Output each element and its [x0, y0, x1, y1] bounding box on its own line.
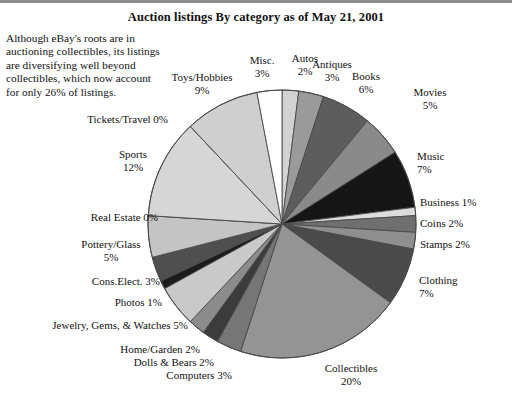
pie-label-computers: Computers 3%	[86, 369, 232, 382]
pie-label-business: Business 1%	[420, 196, 510, 209]
pie-label-toys: Toys/Hobbies 9%	[153, 71, 251, 96]
chart-title: Auction listings By category as of May 2…	[0, 10, 512, 25]
pie-label-realestate: Real Estate 0%	[32, 211, 158, 224]
pie-label-clothing: Clothing 7%	[419, 274, 485, 299]
pie-label-jewelry: Jewelry, Gems, & Watches 5%	[2, 319, 188, 332]
pie-label-homegarden: Home/Garden 2%	[42, 343, 200, 356]
pie-label-books: Books 6%	[341, 70, 391, 95]
pie-label-tickets: Tickets/Travel 0%	[44, 113, 168, 126]
chart-caption: Although eBay's roots are in auctioning …	[6, 32, 166, 99]
top-divider	[0, 0, 512, 3]
pie-slices	[148, 90, 416, 358]
pie-label-movies: Movies 5%	[403, 86, 457, 111]
pie-label-coins: Coins 2%	[420, 217, 500, 230]
pie-label-sports: Sports 12%	[101, 148, 165, 173]
pie-label-conselect: Cons.Elect. 3%	[20, 275, 160, 288]
pie-label-dolls: Dolls & Bears 2%	[58, 356, 214, 369]
pie-label-photos: Photos 1%	[28, 296, 162, 309]
pie-label-pottery: Pottery/Glass 5%	[61, 238, 161, 263]
pie-label-stamps: Stamps 2%	[420, 238, 504, 251]
pie-label-music: Music 7%	[417, 150, 477, 175]
pie-label-collectibles: Collectibles 20%	[307, 362, 395, 387]
